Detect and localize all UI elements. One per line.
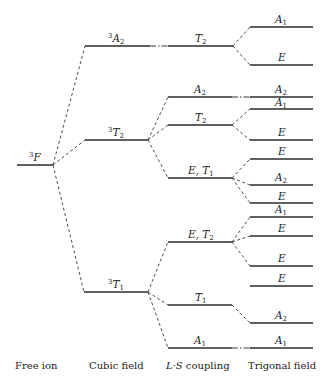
svg-text:E: E: [277, 145, 286, 157]
cubic-level-3T2: 3T2: [85, 126, 148, 140]
trigonal-level-A1: A1: [250, 96, 313, 110]
svg-text:A1: A1: [274, 203, 287, 217]
trigonal-level-E: E: [250, 190, 313, 203]
trigonal-level-E: E: [250, 222, 313, 236]
energy-level-splitting-diagram: 3F 3A2 3T2 3T1 T2 A2 T2: [0, 0, 326, 380]
svg-text:A2: A2: [274, 309, 287, 323]
column-label-ls-coupling: L·S coupling: [165, 360, 230, 371]
trigonal-level-A2: A2: [250, 171, 313, 185]
svg-text:E: E: [277, 222, 286, 234]
svg-text:T1: T1: [195, 291, 206, 305]
trigonal-level-E: E: [250, 126, 313, 140]
trigonal-level-A1: A1: [250, 203, 313, 217]
svg-text:A2: A2: [274, 171, 287, 185]
svg-text:3T1: 3T1: [108, 278, 124, 292]
ls-level-A1-from-3T1: A1: [168, 334, 232, 348]
trigonal-level-A1: A1: [250, 334, 313, 348]
svg-text:E: E: [277, 51, 286, 63]
ls-level-A2-from-3T2: A2: [168, 83, 232, 97]
trigonal-level-A1: A1: [250, 13, 313, 27]
svg-text:3F: 3F: [29, 151, 41, 163]
column-label-free-ion: Free ion: [15, 360, 58, 371]
cubic-level-3T1: 3T1: [84, 278, 148, 292]
svg-text:3A2: 3A2: [108, 32, 125, 46]
svg-text:A1: A1: [193, 334, 206, 348]
svg-text:T2: T2: [195, 111, 206, 125]
svg-text:E: E: [277, 252, 286, 264]
ls-to-trigonal-connectors: [232, 27, 250, 348]
trigonal-level-E: E: [250, 51, 313, 65]
trigonal-level-A2: A2: [250, 309, 313, 323]
svg-text:A2: A2: [193, 83, 206, 97]
cubic-level-3A2: 3A2: [85, 32, 150, 46]
column-labels: Free ion Cubic field L·S coupling Trigon…: [15, 360, 317, 371]
trigonal-levels: A1 E A2 A1 E E A2 E: [250, 13, 313, 348]
svg-text:E: E: [277, 190, 286, 202]
svg-text:E, T1: E, T1: [187, 164, 214, 178]
svg-text:E: E: [277, 272, 286, 284]
svg-text:A1: A1: [274, 96, 287, 110]
svg-text:T2: T2: [195, 32, 206, 46]
trigonal-level-E: E: [250, 145, 313, 159]
column-label-cubic-field: Cubic field: [89, 360, 144, 371]
svg-text:E: E: [277, 126, 286, 138]
svg-text:3T2: 3T2: [108, 126, 124, 140]
svg-text:A1: A1: [274, 334, 287, 348]
column-label-trigonal-field: Trigonal field: [248, 360, 317, 371]
ls-level-T2-from-3A2: T2: [168, 32, 233, 46]
trigonal-level-E: E: [250, 252, 313, 266]
svg-text:A2: A2: [274, 83, 287, 97]
svg-text:E, T2: E, T2: [187, 228, 214, 242]
free-ion-to-cubic-connectors: [53, 46, 85, 292]
ls-level-T2-from-3T2: T2: [168, 111, 232, 125]
ls-level-T1-from-3T1: T1: [168, 291, 232, 305]
ls-level-E-T2-from-3T1: E, T2: [168, 228, 232, 242]
ls-level-E-T1-from-3T2: E, T1: [168, 164, 232, 178]
cubic-to-ls-connectors: [148, 46, 168, 348]
free-ion-level-3F: 3F: [17, 151, 53, 165]
trigonal-level-A2: A2: [250, 83, 313, 97]
svg-text:A1: A1: [274, 13, 287, 27]
trigonal-level-E-unconnected: E: [250, 272, 313, 286]
